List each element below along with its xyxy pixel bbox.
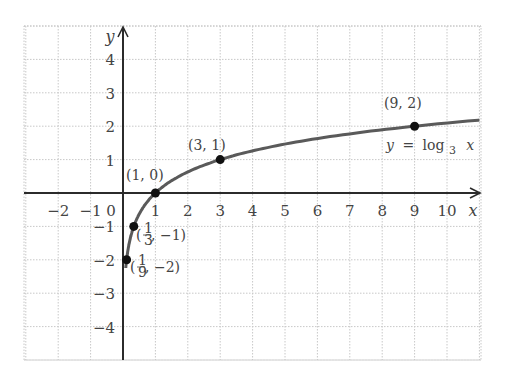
x-axis-label: x: [468, 201, 477, 220]
y-tick-label: 4: [105, 51, 115, 69]
y-axis-label: y: [104, 27, 115, 46]
x-tick-label: 2: [183, 202, 193, 220]
point-label: (13, −1): [136, 220, 186, 248]
point-label: (3, 1): [188, 137, 226, 153]
x-tick-label: −1: [80, 202, 102, 220]
x-tick-label: 6: [313, 202, 323, 220]
x-tick-label: 1: [151, 202, 161, 220]
svg-text:, −2): , −2): [145, 259, 180, 275]
y-tick-label: −2: [93, 252, 115, 270]
data-point: [216, 155, 225, 164]
data-point: [151, 189, 160, 198]
y-tick-label: 1: [105, 152, 115, 170]
y-tick-label: −4: [93, 319, 115, 337]
point-label: (1, 0): [126, 167, 164, 183]
y-tick-label: −3: [93, 285, 115, 303]
axes: [24, 27, 480, 360]
x-tick-label: 5: [280, 202, 290, 220]
y-tick-label: 2: [105, 118, 115, 136]
svg-text:(: (: [130, 259, 135, 275]
y-tick-label: 3: [105, 85, 115, 103]
x-tick-label: 7: [345, 202, 355, 220]
x-tick-label: 10: [437, 202, 456, 220]
svg-text:(: (: [136, 227, 141, 243]
function-label: y = log 3 x: [385, 137, 474, 157]
x-tick-label: −2: [47, 202, 69, 220]
data-points: (19, −2)(13, −1)(1, 0)(3, 1)(9, 2): [122, 95, 422, 280]
log-graph: −2−10123456789104321−1−2−3−4xy (19, −2)(…: [0, 0, 505, 380]
x-tick-label: 3: [215, 202, 225, 220]
point-label: (9, 2): [384, 95, 422, 111]
x-tick-label: 4: [248, 202, 258, 220]
data-point: [410, 122, 419, 131]
tick-labels: −2−10123456789104321−1−2−3−4xy: [47, 27, 477, 337]
y-tick-label: −1: [93, 218, 115, 236]
x-tick-label: 9: [410, 202, 420, 220]
svg-text:, −1): , −1): [151, 227, 186, 243]
x-tick-label: 0: [106, 202, 116, 220]
x-tick-label: 8: [377, 202, 387, 220]
